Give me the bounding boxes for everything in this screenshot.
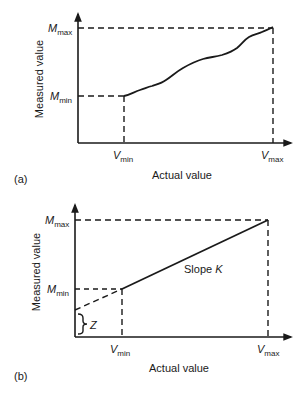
chart-b-vmin-label: Vmin (110, 343, 130, 358)
figure-canvas: Mmax Mmin Vmin Vmax Actual value Measure… (0, 0, 307, 399)
chart-a-mmax-label: Mmax (48, 22, 72, 37)
chart-a-panel-label: (a) (14, 173, 27, 185)
chart-a: Mmax Mmin Vmin Vmax Actual value Measure… (14, 14, 291, 185)
chart-b-mmin-label: Mmin (47, 283, 69, 298)
chart-b-linear-response (122, 220, 268, 289)
chart-b-slope-label: Slope K (184, 263, 223, 275)
chart-b-offset-brace-icon (78, 314, 87, 334)
chart-b-vmax-label: Vmax (257, 343, 279, 358)
chart-a-vmin-label: Vmin (113, 149, 133, 164)
chart-b-mmax-label: Mmax (45, 214, 69, 229)
chart-a-y-axis-title: Measured value (33, 40, 45, 118)
chart-a-response-curve (124, 27, 273, 96)
chart-a-mmin-label: Mmin (50, 90, 72, 105)
chart-b: Z Slope K Mmax Mmin Vmin Vmax Actual val… (14, 205, 291, 382)
chart-a-x-axis-title: Actual value (152, 169, 212, 181)
chart-b-panel-label: (b) (14, 370, 27, 382)
chart-b-x-axis-title: Actual value (149, 362, 209, 374)
chart-b-offset-label: Z (89, 319, 98, 331)
chart-b-extrapolation-dashed (75, 289, 122, 310)
chart-a-vmax-label: Vmax (261, 149, 283, 164)
chart-b-y-axis-title: Measured value (30, 233, 42, 311)
